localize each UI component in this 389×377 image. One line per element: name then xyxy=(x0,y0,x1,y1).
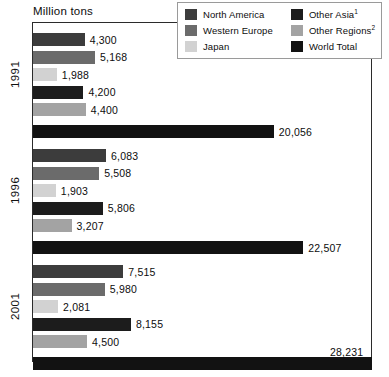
bar-row: 6,083 xyxy=(33,149,372,162)
swatch-japan xyxy=(185,41,197,52)
bar-western-europe-1991 xyxy=(33,51,95,64)
legend-column-2: Other Asia1Other Regions2World Total xyxy=(291,8,375,53)
bar-value-label: 4,200 xyxy=(88,86,115,98)
bar-other-asia-2001 xyxy=(33,318,131,331)
bar-row: 20,056 xyxy=(33,125,372,138)
bar-row: 3,207 xyxy=(33,219,372,232)
bar-row: 1,988 xyxy=(33,68,372,81)
bar-japan-2001 xyxy=(33,300,58,313)
bar-western-europe-1996 xyxy=(33,167,99,180)
bar-other-regions-1996 xyxy=(33,219,72,232)
bar-value-label: 1,988 xyxy=(62,69,89,81)
chart-axis-title: Million tons xyxy=(33,5,93,17)
bar-row: 5,980 xyxy=(33,283,372,296)
bar-row: 22,507 xyxy=(33,241,372,254)
legend-footnote-marker: 2 xyxy=(371,24,375,31)
bar-value-label: 6,083 xyxy=(111,150,138,162)
bar-value-label: 5,508 xyxy=(104,167,131,179)
bar-world-total-2001 xyxy=(33,357,372,370)
bar-value-label: 28,231 xyxy=(330,346,363,358)
legend-item-north-america[interactable]: North America xyxy=(185,8,273,21)
bar-value-label: 1,903 xyxy=(61,185,88,197)
legend: North AmericaWestern EuropeJapanOther As… xyxy=(177,2,382,59)
swatch-western-europe xyxy=(185,25,197,36)
legend-label: World Total xyxy=(309,41,357,52)
bar-value-label: 8,155 xyxy=(136,318,163,330)
bar-value-label: 20,056 xyxy=(279,126,312,138)
legend-label: North America xyxy=(203,9,265,20)
bar-north-america-2001 xyxy=(33,265,123,278)
bar-row: 4,500 xyxy=(33,335,372,348)
legend-label: Western Europe xyxy=(203,25,273,36)
bar-north-america-1996 xyxy=(33,149,106,162)
year-label-1996: 1996 xyxy=(9,178,21,204)
bar-japan-1991 xyxy=(33,68,57,81)
bar-value-label: 22,507 xyxy=(308,242,341,254)
bar-value-label: 2,081 xyxy=(63,301,90,313)
year-label-2001: 2001 xyxy=(9,294,21,320)
bar-japan-1996 xyxy=(33,184,56,197)
bar-row: 7,515 xyxy=(33,265,372,278)
bar-value-label: 4,500 xyxy=(92,336,119,348)
year-label-1991: 1991 xyxy=(9,62,21,88)
bar-world-total-1996 xyxy=(33,241,303,254)
bar-row: 5,508 xyxy=(33,167,372,180)
bar-chart: Million tons 1991 1996 2001 4,3005,1681,… xyxy=(0,0,389,377)
bar-value-label: 5,980 xyxy=(110,283,137,295)
bar-row: 1,903 xyxy=(33,184,372,197)
legend-label: Japan xyxy=(203,41,229,52)
bar-row: 2,081 xyxy=(33,300,372,313)
bar-value-label: 4,400 xyxy=(91,104,118,116)
legend-item-world-total[interactable]: World Total xyxy=(291,40,375,53)
bar-value-label: 5,806 xyxy=(108,202,135,214)
legend-item-other-asia[interactable]: Other Asia1 xyxy=(291,8,375,21)
legend-label: Other Asia1 xyxy=(309,8,358,20)
bar-north-america-1991 xyxy=(33,33,85,46)
bar-western-europe-2001 xyxy=(33,283,105,296)
legend-item-other-regions[interactable]: Other Regions2 xyxy=(291,24,375,37)
legend-item-japan[interactable]: Japan xyxy=(185,40,273,53)
swatch-north-america xyxy=(185,9,197,20)
bar-value-label: 7,515 xyxy=(128,266,155,278)
bar-value-label: 5,168 xyxy=(100,51,127,63)
bar-value-label: 3,207 xyxy=(77,220,104,232)
bar-other-asia-1991 xyxy=(33,86,83,99)
bar-world-total-1991 xyxy=(33,125,274,138)
bar-row: 4,200 xyxy=(33,86,372,99)
bar-value-label: 4,300 xyxy=(90,34,117,46)
swatch-other-regions xyxy=(291,25,303,36)
bar-other-regions-2001 xyxy=(33,335,87,348)
bar-row: 5,806 xyxy=(33,202,372,215)
legend-columns: North AmericaWestern EuropeJapanOther As… xyxy=(185,8,375,53)
legend-column-1: North AmericaWestern EuropeJapan xyxy=(185,8,273,53)
bar-row: 28,231 xyxy=(33,357,372,370)
bar-other-asia-1996 xyxy=(33,202,103,215)
bar-other-regions-1991 xyxy=(33,103,86,116)
swatch-other-asia xyxy=(291,9,303,20)
legend-item-western-europe[interactable]: Western Europe xyxy=(185,24,273,37)
legend-label: Other Regions2 xyxy=(309,24,375,36)
legend-footnote-marker: 1 xyxy=(354,8,358,15)
bar-row: 8,155 xyxy=(33,318,372,331)
swatch-world-total xyxy=(291,41,303,52)
bars-layer: 4,3005,1681,9884,2004,40020,0566,0835,50… xyxy=(33,23,372,362)
bar-row: 4,400 xyxy=(33,103,372,116)
